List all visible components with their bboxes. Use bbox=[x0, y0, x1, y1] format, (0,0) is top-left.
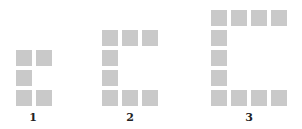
figure-3-square bbox=[231, 10, 247, 26]
figure-1-square bbox=[36, 50, 52, 66]
figure-2-square bbox=[122, 30, 138, 46]
figure-1-square bbox=[16, 70, 32, 86]
figure-1-square bbox=[16, 90, 32, 106]
figure-2-square bbox=[102, 90, 118, 106]
figure-1-square bbox=[36, 90, 52, 106]
figure-2-square bbox=[142, 90, 158, 106]
figure-3-square bbox=[211, 90, 227, 106]
figure-3-square bbox=[271, 10, 287, 26]
figure-3-square bbox=[211, 50, 227, 66]
figure-3-label: 3 bbox=[239, 111, 259, 124]
figure-2-label: 2 bbox=[120, 111, 140, 124]
figure-1-square bbox=[16, 50, 32, 66]
figure-3-square bbox=[271, 90, 287, 106]
figure-3-square bbox=[231, 90, 247, 106]
figure-1-label: 1 bbox=[23, 111, 43, 124]
figure-2-square bbox=[102, 50, 118, 66]
figure-3-square bbox=[211, 10, 227, 26]
figure-2-square bbox=[102, 30, 118, 46]
figure-3-square bbox=[251, 90, 267, 106]
figure-3-square bbox=[211, 70, 227, 86]
figure-3-square bbox=[251, 10, 267, 26]
figure-2-square bbox=[142, 30, 158, 46]
figure-2-square bbox=[122, 90, 138, 106]
figure-3-square bbox=[211, 30, 227, 46]
figure-2-square bbox=[102, 70, 118, 86]
